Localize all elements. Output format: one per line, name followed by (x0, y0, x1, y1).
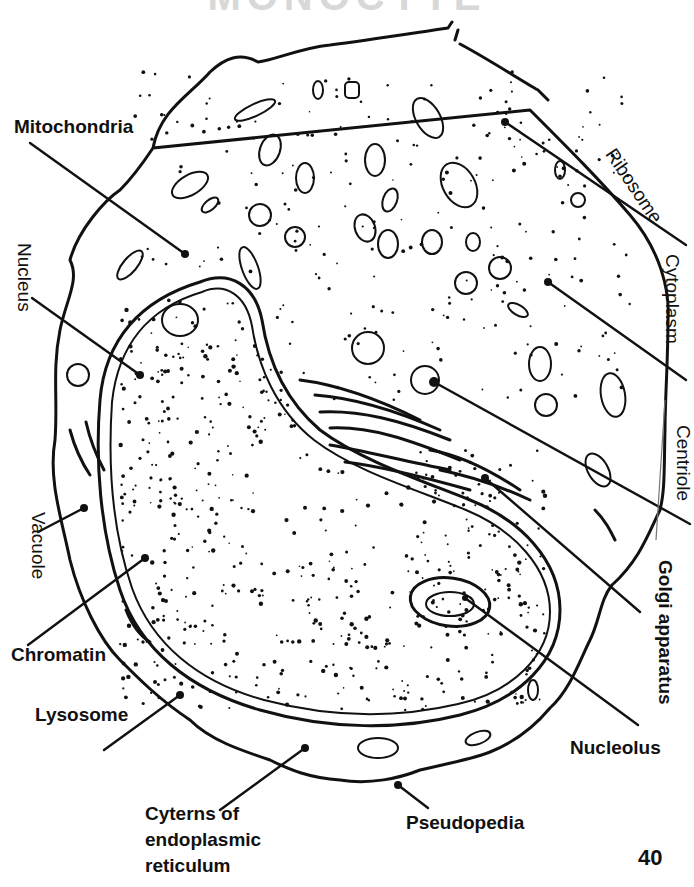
label-nucleolus: Nucleolus (570, 738, 661, 759)
leader-centriole (434, 382, 690, 524)
leader-pseudopedia (398, 785, 428, 808)
label-centriole: Centriole (672, 425, 693, 501)
label-pseudopedia: Pseudopedia (406, 813, 524, 834)
monocyte-diagram: MONOCYTE (0, 0, 694, 887)
label-er-line1: Cyterns of (145, 804, 239, 825)
label-nucleus: Nucleus (13, 243, 34, 312)
nuclear-envelope-inner (111, 289, 550, 714)
label-lysosome: Lysosome (35, 705, 128, 726)
label-er-line2: endoplasmic (145, 830, 261, 851)
leader-ribosome (505, 122, 686, 245)
label-vacuole: Vacuole (27, 512, 48, 579)
label-mitochondria: Mitochondria (14, 117, 133, 138)
label-cytoplasm: Cytoplasm (661, 254, 682, 344)
nucleolus-outer (407, 573, 493, 632)
cytoplasm-speckles (133, 70, 631, 401)
label-er-line3: reticulum (145, 856, 231, 877)
leader-golgi (485, 478, 640, 612)
page-number: 40 (638, 845, 662, 871)
leader-nucleus (32, 298, 140, 375)
label-golgi: Golgi apparatus (654, 560, 675, 705)
leader-mitochondria (30, 143, 185, 254)
label-chromatin: Chromatin (11, 645, 106, 666)
